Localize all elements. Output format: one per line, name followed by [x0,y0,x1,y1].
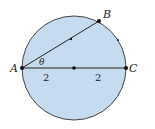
center-point [72,66,76,70]
point-b [97,19,101,23]
arc-mark [117,39,119,41]
label-a: A [9,62,18,75]
label-ao-length: 2 [43,72,49,83]
label-oc-length: 2 [95,72,101,83]
label-b: B [102,8,111,21]
midpoint-ab [70,38,72,40]
label-c: C [129,62,138,75]
point-a [20,66,24,70]
circle-diagram: A B C θ 2 2 [0,0,155,129]
point-c [124,66,128,70]
label-theta: θ [39,57,45,67]
